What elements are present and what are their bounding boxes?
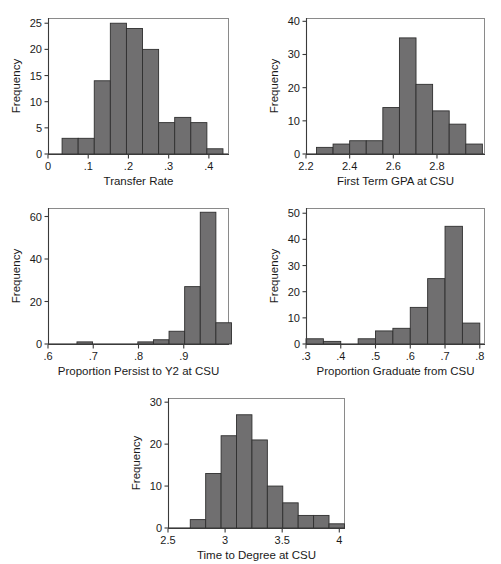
y-tick-label: 15 [30, 70, 42, 82]
histogram-bar: 8 [462, 323, 479, 344]
y-tick-label: 60 [30, 211, 42, 223]
histogram-bar: 27 [185, 287, 201, 344]
x-axis-title: Time to Degree at CSU [197, 549, 316, 561]
y-tick-label: 40 [288, 15, 300, 27]
bar-series: 213222721106331 [190, 415, 344, 528]
histogram-bar: 4 [350, 141, 367, 154]
histogram-bar: 3 [78, 138, 94, 154]
x-tick-label: .3 [164, 160, 173, 172]
x-axis-title: Proportion Persist to Y2 at CSU [58, 365, 220, 377]
y-tick-label: 50 [288, 207, 300, 219]
histogram-bar: 3 [314, 515, 329, 528]
histogram-bar: 14 [94, 81, 110, 154]
histogram-bar: 6 [393, 328, 410, 344]
y-axis: 01020304050 [288, 207, 307, 350]
bar-series: 33142524206761 [62, 23, 223, 154]
y-tick-label: 0 [36, 338, 42, 350]
histogram-bar: 1 [77, 342, 93, 344]
x-tick-label: .8 [475, 350, 484, 362]
y-tick-label: 30 [288, 260, 300, 272]
y-tick-label: 10 [288, 115, 300, 127]
bar-series: 212561425458 [306, 226, 480, 344]
histogram-bar: 3 [333, 144, 350, 154]
y-tick-label: 10 [288, 312, 300, 324]
histogram-bar: 6 [191, 123, 207, 154]
y-axis-title: Frequency [268, 59, 280, 114]
x-tick-label: 3.5 [275, 534, 290, 546]
y-tick-label: 0 [156, 522, 162, 534]
histogram-bar: 24 [126, 28, 142, 154]
y-tick-label: 30 [288, 48, 300, 60]
histogram-bar: 2 [316, 147, 333, 154]
histogram-panel-transfer-rate: 3314252420676105101520250.1.2.3.4Transfe… [2, 6, 245, 191]
histogram-bar: 10 [216, 323, 232, 344]
histogram-bar: 14 [383, 108, 400, 154]
x-tick-label: .6 [406, 350, 415, 362]
x-tick-label: .8 [134, 350, 143, 362]
x-tick-label: 2.8 [429, 160, 444, 172]
x-tick-label: .9 [179, 350, 188, 362]
histogram-bar: 2 [358, 339, 375, 344]
histogram-bar: 62 [200, 212, 216, 344]
histogram-bar: 6 [169, 331, 185, 344]
histogram-bar: 1 [138, 342, 154, 344]
x-tick-label: .7 [89, 350, 98, 362]
histogram-bar: 22 [221, 436, 236, 528]
y-axis: 010203040 [288, 15, 307, 160]
histogram-bar: 35 [399, 38, 416, 154]
x-tick-label: .7 [440, 350, 449, 362]
histogram-bar: 25 [428, 279, 445, 344]
histogram-bar: 1 [329, 524, 344, 528]
histogram-bar: 1 [323, 341, 340, 344]
y-tick-label: 0 [36, 148, 42, 160]
x-tick-label: 2.5 [160, 534, 175, 546]
y-tick-label: 5 [36, 122, 42, 134]
histogram-bar: 3 [62, 138, 78, 154]
y-tick-label: 25 [30, 17, 42, 29]
histogram-bar: 6 [159, 123, 175, 154]
histogram-panel-first-term-gpa: 234414352113930102030402.22.42.62.8First… [258, 6, 501, 191]
histogram-bar: 45 [445, 226, 462, 344]
histogram-panel-proportion-persist: 11262762100204060.6.7.8.9Proportion Pers… [2, 196, 245, 381]
histogram-bar: 27 [237, 415, 252, 528]
histogram-bar: 9 [449, 124, 466, 154]
y-tick-label: 20 [150, 438, 162, 450]
y-axis-title: Frequency [10, 59, 22, 114]
x-axis: .3.4.5.6.7.8 [301, 345, 484, 363]
x-tick-label: .2 [124, 160, 133, 172]
y-tick-label: 0 [294, 338, 300, 350]
y-tick-label: 30 [150, 396, 162, 408]
y-tick-label: 40 [30, 253, 42, 265]
x-tick-label: .6 [43, 350, 52, 362]
x-axis: 2.533.54 [160, 529, 342, 547]
histogram-bar: 20 [143, 49, 159, 154]
y-tick-label: 40 [288, 233, 300, 245]
x-tick-label: 2.4 [342, 160, 357, 172]
y-tick-label: 20 [30, 43, 42, 55]
histogram-bar: 3 [298, 515, 313, 528]
y-tick-label: 20 [288, 286, 300, 298]
x-tick-label: .3 [301, 350, 310, 362]
histogram-bar: 21 [252, 440, 267, 528]
bar-series: 23441435211393 [316, 38, 482, 154]
y-axis: 0510152025 [30, 17, 49, 160]
histogram-bar: 10 [267, 486, 282, 528]
x-axis-title: Transfer Rate [104, 175, 174, 187]
x-tick-label: .4 [204, 160, 213, 172]
y-tick-label: 10 [30, 96, 42, 108]
x-tick-label: .1 [84, 160, 93, 172]
y-axis-title: Frequency [10, 249, 22, 304]
x-tick-label: 4 [336, 534, 342, 546]
x-axis-title: Proportion Graduate from CSU [317, 365, 475, 377]
x-tick-label: 2.6 [386, 160, 401, 172]
x-tick-label: 0 [45, 160, 51, 172]
histogram-bar: 7 [175, 117, 191, 154]
x-tick-label: 2.2 [298, 160, 313, 172]
histogram-bar: 13 [433, 111, 450, 154]
x-axis: 0.1.2.3.4 [45, 155, 214, 173]
histogram-bar: 3 [466, 144, 483, 154]
histogram-panel-time-to-degree: 21322272110633101020302.533.54Time to De… [120, 386, 382, 564]
histogram-svg: 21322272110633101020302.533.54Time to De… [120, 386, 382, 564]
y-axis-title: Frequency [130, 436, 142, 491]
y-axis: 0204060 [30, 211, 49, 351]
